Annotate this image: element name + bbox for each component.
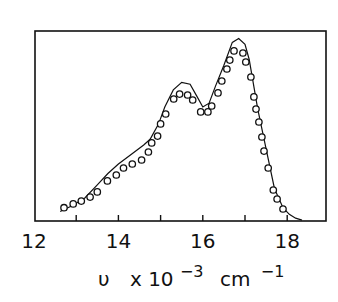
x-axis-unit-exponent: −1 xyxy=(261,262,285,281)
data-point xyxy=(243,59,249,65)
data-point xyxy=(248,74,254,80)
x-axis-tick-labels: 12141618 xyxy=(21,229,300,253)
data-point xyxy=(280,206,286,212)
data-point xyxy=(113,172,119,178)
data-point xyxy=(129,161,135,167)
data-point xyxy=(176,91,182,97)
data-point xyxy=(205,109,211,115)
x-axis-multiplier: x 10 xyxy=(130,267,174,291)
x-tick-label: 12 xyxy=(21,229,46,253)
x-axis-label: υ x 10 −3 cm −1 xyxy=(98,258,284,291)
data-point xyxy=(219,78,225,84)
x-tick-label: 18 xyxy=(274,229,299,253)
data-point xyxy=(61,205,67,211)
data-point xyxy=(256,119,262,125)
data-point xyxy=(104,178,110,184)
x-tick-label: 14 xyxy=(106,229,131,253)
data-point xyxy=(227,57,233,63)
data-point xyxy=(138,157,144,163)
data-point xyxy=(94,189,100,195)
data-point xyxy=(145,149,151,155)
plot-frame xyxy=(35,31,326,221)
data-point xyxy=(251,94,257,100)
spectrum-chart: 12141618 υ x 10 −3 cm −1 xyxy=(0,0,338,302)
data-point xyxy=(240,50,246,56)
data-point xyxy=(163,111,169,117)
data-point xyxy=(274,196,280,202)
data-point xyxy=(231,48,237,54)
data-point xyxy=(190,97,196,103)
data-point xyxy=(253,106,259,112)
data-point xyxy=(149,140,155,146)
data-point xyxy=(184,92,190,98)
data-point xyxy=(270,187,276,193)
x-axis-exponent: −3 xyxy=(180,262,204,281)
x-tick-label: 16 xyxy=(190,229,215,253)
data-point xyxy=(70,201,76,207)
data-point xyxy=(154,133,160,139)
x-axis-ticks xyxy=(76,215,287,221)
x-axis-unit: cm xyxy=(220,267,250,291)
data-point xyxy=(171,96,177,102)
data-point xyxy=(209,103,215,109)
data-point xyxy=(261,148,267,154)
data-point xyxy=(265,165,271,171)
nu-symbol: υ xyxy=(98,267,110,291)
data-point xyxy=(215,90,221,96)
data-point xyxy=(198,109,204,115)
data-point xyxy=(224,66,230,72)
data-point xyxy=(259,134,265,140)
data-point xyxy=(157,121,163,127)
data-point xyxy=(78,198,84,204)
data-point xyxy=(87,194,93,200)
data-point xyxy=(120,165,126,171)
